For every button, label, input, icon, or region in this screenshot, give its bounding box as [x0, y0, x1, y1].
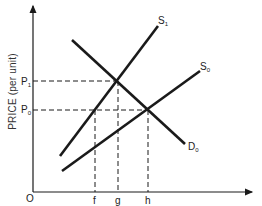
h-label: h — [145, 195, 151, 206]
f-label: f — [93, 195, 96, 206]
demand-curve-d0 — [72, 40, 185, 144]
p1-label: P1 — [21, 76, 32, 88]
s0-label: S0 — [200, 61, 211, 73]
y-axis-label: PRICE (per unit) — [7, 42, 18, 142]
d0-label: D0 — [188, 141, 199, 153]
supply-curve-s0 — [62, 71, 200, 171]
diagram-canvas: S1 S0 D0 P1 P0 O f g h — [0, 0, 262, 206]
origin-label: O — [26, 193, 34, 204]
p0-label: P0 — [21, 104, 32, 116]
g-label: g — [115, 195, 121, 206]
s1-label: S1 — [158, 15, 169, 27]
supply-demand-diagram: S1 S0 D0 P1 P0 O f g h PRICE (per unit) — [0, 0, 262, 206]
